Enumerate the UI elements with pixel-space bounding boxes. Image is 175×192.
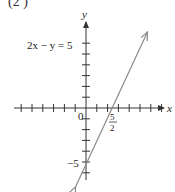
x-intercept-numerator: 5 (110, 112, 115, 122)
graph-figure: (2 ) 2x − y = 5 y x 0 5 2 −5 (0, 0, 175, 192)
coordinate-plane: 2x − y = 5 y x 0 5 2 −5 (0, 0, 175, 192)
origin-label: 0 (78, 110, 84, 122)
y-intercept-label: −5 (67, 157, 79, 169)
x-axis-label: x (166, 102, 172, 114)
equation-label: 2x − y = 5 (27, 39, 73, 51)
x-intercept-denominator: 2 (110, 123, 115, 133)
y-axis-label: y (81, 8, 87, 20)
